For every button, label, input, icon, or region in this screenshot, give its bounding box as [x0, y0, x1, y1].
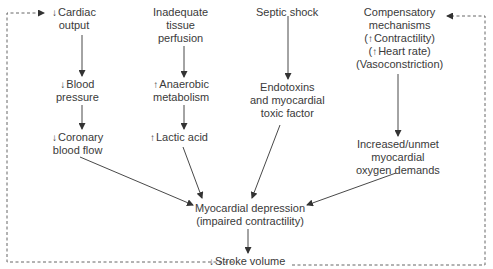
- decrease-arrow-icon: ↓: [52, 7, 57, 18]
- decrease-arrow-icon: ↓: [60, 79, 65, 90]
- node-compensatory-mechanisms: Compensatory mechanisms (↑Contractility)…: [356, 6, 443, 71]
- increase-arrow-icon: ↑: [368, 33, 373, 44]
- node-oxygen-demands: Increased/unmet myocardial oxygen demand…: [356, 138, 440, 177]
- edge-lactic-to-depression: [183, 147, 202, 198]
- node-inadequate-perfusion: Inadequate tissue perfusion: [153, 6, 208, 45]
- decrease-arrow-icon: ↓: [209, 256, 214, 267]
- increase-arrow-icon: ↑: [150, 132, 155, 143]
- increase-arrow-icon: ↑: [153, 79, 158, 90]
- increase-arrow-icon: ↑: [372, 46, 377, 57]
- node-septic-shock: Septic shock: [256, 6, 318, 19]
- node-blood-pressure: ↓Blood pressure: [56, 78, 99, 104]
- node-myocardial-depression: Myocardial depression (impaired contract…: [195, 202, 305, 228]
- decrease-arrow-icon: ↓: [52, 132, 57, 143]
- node-lactic-acid: ↑Lactic acid: [150, 131, 208, 144]
- node-endotoxins: Endotoxins and myocardial toxic factor: [250, 81, 325, 120]
- node-cardiac-output: ↓Cardiac output: [52, 6, 96, 32]
- edge-oxygen-to-depression: [307, 173, 396, 205]
- node-anaerobic-metabolism: ↑Anaerobic metabolism: [153, 78, 209, 104]
- edge-coronary-to-depression: [80, 157, 193, 205]
- node-coronary-blood-flow: ↓Coronary blood flow: [52, 131, 103, 157]
- node-stroke-volume: ↓Stroke volume: [209, 255, 285, 268]
- edge-endotoxins-to-depression: [252, 125, 280, 198]
